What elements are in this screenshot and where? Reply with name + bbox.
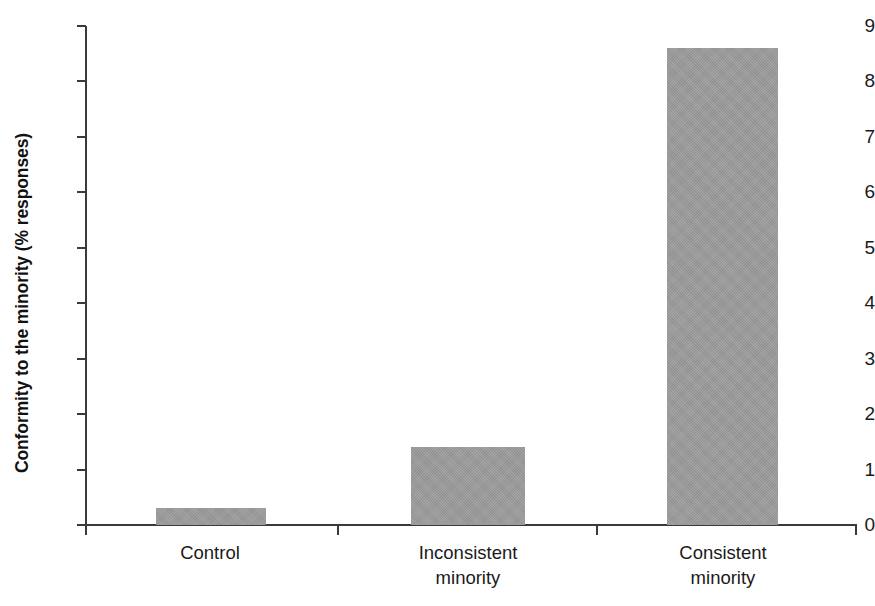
x-axis-label-line: Consistent — [603, 540, 843, 565]
x-axis-label-line: minority — [603, 565, 843, 590]
y-axis-tick-label: 7 — [813, 126, 875, 148]
x-axis-tick — [596, 524, 598, 535]
bar-chart: Conformity to the minority (% responses)… — [0, 0, 875, 606]
y-axis-tick — [77, 247, 86, 249]
y-axis-tick — [77, 25, 86, 27]
x-axis-label-control: Control — [100, 540, 320, 565]
x-axis-label-line: Control — [100, 540, 320, 565]
y-axis-tick-label: 3 — [813, 348, 875, 370]
y-axis-tick-label: 9 — [813, 15, 875, 37]
y-axis-tick-label: 1 — [813, 459, 875, 481]
y-axis-tick-label: 5 — [813, 237, 875, 259]
y-axis-tick — [77, 302, 86, 304]
y-axis-tick — [77, 191, 86, 193]
y-axis-line — [85, 26, 87, 526]
y-axis-tick-label: 4 — [813, 292, 875, 314]
bar-consistent-minority — [667, 48, 778, 525]
x-axis-label-line: Inconsistent — [348, 540, 588, 565]
y-axis-tick-label: 8 — [813, 70, 875, 92]
x-axis-tick — [855, 524, 857, 535]
x-axis-label-line: minority — [348, 565, 588, 590]
x-axis-label-inconsistent-minority: Inconsistentminority — [348, 540, 588, 590]
bar-inconsistent-minority — [411, 447, 525, 525]
x-axis-tick — [85, 524, 87, 535]
y-axis-tick — [77, 469, 86, 471]
y-axis-tick — [77, 136, 86, 138]
y-axis-title: Conformity to the minority (% responses) — [0, 0, 44, 606]
y-axis-tick — [77, 80, 86, 82]
bar-control — [156, 508, 266, 525]
y-axis-tick — [77, 358, 86, 360]
y-axis-tick-label: 6 — [813, 181, 875, 203]
y-axis-tick-label: 0 — [813, 514, 875, 536]
y-axis-tick — [77, 413, 86, 415]
y-axis-tick-label: 2 — [813, 403, 875, 425]
x-axis-label-consistent-minority: Consistentminority — [603, 540, 843, 590]
x-axis-tick — [337, 524, 339, 535]
